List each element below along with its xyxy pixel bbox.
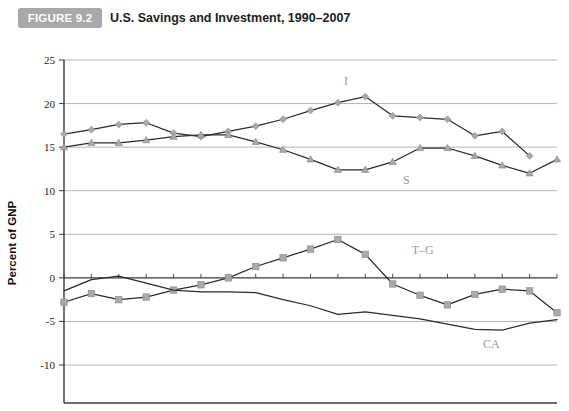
data-point-square — [143, 294, 149, 300]
data-point-diamond — [307, 107, 314, 114]
data-point-square — [526, 288, 532, 294]
y-tick-label: 10 — [44, 185, 56, 197]
y-tick-label: 25 — [44, 54, 56, 66]
data-point-square — [88, 290, 94, 296]
series-line — [64, 135, 557, 173]
data-point-square — [472, 291, 478, 297]
series-s — [60, 131, 560, 176]
data-point-diamond — [444, 116, 451, 123]
series-label-s: S — [403, 173, 410, 187]
data-point-square — [389, 281, 395, 287]
data-point-square — [417, 292, 423, 298]
data-series — [60, 93, 560, 330]
figure-container: FIGURE 9.2 U.S. Savings and Investment, … — [0, 0, 569, 411]
y-tick-label: 0 — [50, 272, 56, 284]
series-label-i: I — [344, 74, 348, 88]
data-point-square — [444, 302, 450, 308]
data-point-diamond — [88, 126, 95, 133]
data-point-square — [335, 236, 341, 242]
data-point-square — [253, 263, 259, 269]
data-point-diamond — [143, 119, 150, 126]
chart-svg: -10-50510152025 199019921994199619982000… — [0, 38, 569, 411]
data-point-square — [225, 275, 231, 281]
data-point-diamond — [334, 99, 341, 106]
y-tick-label: 5 — [50, 228, 56, 240]
data-point-square — [554, 310, 560, 316]
data-point-triangle — [389, 158, 396, 164]
y-tick-label: 20 — [44, 98, 56, 110]
data-point-square — [499, 286, 505, 292]
series-line — [64, 276, 557, 330]
data-point-triangle — [553, 156, 560, 162]
y-axis-title: Percent of GNP — [6, 200, 18, 285]
data-point-square — [198, 282, 204, 288]
grid-lines — [64, 60, 557, 365]
figure-title: U.S. Savings and Investment, 1990–2007 — [110, 8, 350, 28]
data-point-square — [61, 299, 67, 305]
y-tick-label: 15 — [44, 141, 56, 153]
series-label-t-g: T–G — [412, 243, 434, 257]
chart-plot-area: -10-50510152025 199019921994199619982000… — [0, 38, 569, 411]
figure-number-label: FIGURE 9.2 — [18, 8, 102, 28]
data-point-square — [362, 251, 368, 257]
data-point-diamond — [61, 131, 68, 138]
y-tick-label: -10 — [40, 359, 55, 371]
series-labels: IST–GCA — [344, 74, 500, 351]
data-point-diamond — [471, 132, 478, 139]
figure-number-badge: FIGURE 9.2 — [18, 8, 102, 28]
data-point-diamond — [417, 114, 424, 121]
data-point-square — [307, 246, 313, 252]
data-point-square — [280, 255, 286, 261]
y-tick-label: -5 — [46, 315, 56, 327]
data-point-diamond — [280, 116, 287, 123]
data-point-square — [116, 296, 122, 302]
data-point-diamond — [252, 123, 259, 130]
figure-header: FIGURE 9.2 U.S. Savings and Investment, … — [0, 0, 569, 38]
data-point-diamond — [115, 121, 122, 128]
series-label-ca: CA — [483, 337, 500, 351]
y-tick-labels: -10-50510152025 — [40, 54, 55, 371]
series-ca — [64, 276, 557, 330]
